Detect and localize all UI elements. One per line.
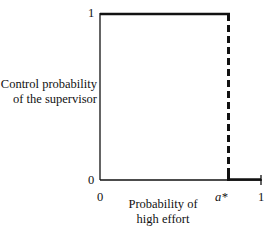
x-tick-1: 1 bbox=[258, 190, 264, 204]
y-axis-label-line-2: of the supervisor bbox=[1, 92, 97, 107]
x-axis-label-line-1: Probability of bbox=[113, 197, 213, 212]
x-axis-label: Probability of high effort bbox=[113, 197, 213, 227]
x-tick-0: 0 bbox=[97, 190, 103, 204]
y-tick-0: 0 bbox=[88, 173, 94, 187]
x-axis-label-line-2: high effort bbox=[113, 212, 213, 227]
y-axis-label: Control probability of the supervisor bbox=[1, 77, 97, 107]
y-tick-1: 1 bbox=[88, 6, 94, 20]
y-axis-label-line-1: Control probability bbox=[1, 77, 97, 92]
x-tick-threshold: a* bbox=[215, 190, 228, 204]
